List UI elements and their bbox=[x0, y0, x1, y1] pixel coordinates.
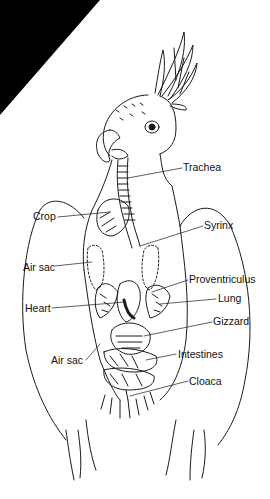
label-trachea: Trachea bbox=[183, 161, 221, 173]
trachea-drawing bbox=[117, 158, 140, 248]
gizzard-intestines bbox=[104, 323, 157, 400]
label-intestines: Intestines bbox=[178, 348, 223, 360]
label-cloaca: Cloaca bbox=[189, 375, 222, 387]
air-sacs-upper bbox=[87, 245, 158, 290]
head bbox=[97, 95, 177, 162]
anatomy-diagram: Trachea Crop Syrinx Air sac Proventricul… bbox=[0, 0, 270, 499]
label-heart: Heart bbox=[25, 302, 51, 314]
label-syrinx: Syrinx bbox=[204, 219, 233, 231]
label-air-sac-lower: Air sac bbox=[51, 354, 83, 366]
crop-drawing bbox=[97, 199, 129, 236]
label-gizzard: Gizzard bbox=[213, 315, 249, 327]
crest-feathers bbox=[155, 32, 197, 110]
label-crop: Crop bbox=[33, 210, 56, 222]
lungs-heart bbox=[95, 281, 170, 322]
bird-illustration bbox=[0, 0, 270, 499]
label-lung: Lung bbox=[218, 292, 241, 304]
label-air-sac-upper: Air sac bbox=[23, 261, 55, 273]
label-proventriculus: Proventriculus bbox=[189, 273, 256, 285]
